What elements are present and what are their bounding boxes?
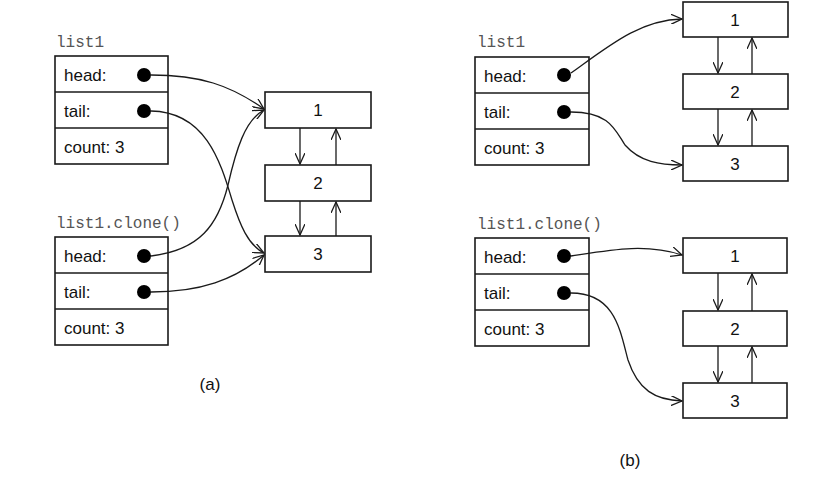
field-head-label: head: (484, 67, 527, 86)
node-value: 2 (730, 320, 739, 339)
node-value: 2 (313, 174, 322, 193)
struct-title: list1 (56, 34, 104, 52)
struct-list1: list1 head: tail: count: 3 (55, 34, 168, 164)
node-value: 3 (313, 245, 322, 264)
struct-clone: list1.clone() head: tail: count: 3 (55, 215, 181, 345)
node-value: 3 (730, 392, 739, 411)
struct-title: list1.clone() (477, 216, 602, 234)
struct-clone: list1.clone() head: tail: count: 3 (475, 216, 602, 346)
tail-pointer-dot (557, 286, 571, 300)
field-head-label: head: (484, 248, 527, 267)
node-chain-original: 1 2 3 (683, 2, 788, 181)
node-value: 2 (730, 83, 739, 102)
field-tail-label: tail: (64, 102, 90, 121)
field-tail-label: tail: (484, 284, 510, 303)
tail-pointer-dot (137, 285, 151, 299)
field-head-label: head: (64, 247, 107, 266)
head-pointer-dot (137, 249, 151, 263)
panel-b: list1 head: tail: count: 3 1 2 3 (475, 2, 788, 470)
struct-list1: list1 head: tail: count: 3 (475, 34, 589, 165)
node-value: 1 (730, 247, 739, 266)
node-value: 1 (730, 11, 739, 30)
field-count-label: count: 3 (64, 138, 125, 157)
panel-a: list1 head: tail: count: 3 list1.clone()… (55, 34, 371, 394)
field-tail-label: tail: (484, 103, 510, 122)
linked-list-clone-diagram: list1 head: tail: count: 3 list1.clone()… (0, 0, 819, 480)
field-head-label: head: (64, 66, 107, 85)
panel-caption: (a) (200, 375, 221, 394)
field-count-label: count: 3 (484, 320, 545, 339)
head-pointer-dot (137, 68, 151, 82)
node-chain: 1 2 3 (265, 92, 371, 272)
tail-pointer-dot (557, 105, 571, 119)
node-chain-copy: 1 2 3 (683, 238, 787, 418)
struct-title: list1.clone() (56, 215, 181, 233)
head-pointer-dot (557, 68, 571, 82)
field-count-label: count: 3 (64, 319, 125, 338)
field-tail-label: tail: (64, 283, 90, 302)
head-pointer-dot (557, 249, 571, 263)
field-count-label: count: 3 (484, 139, 545, 158)
node-value: 3 (730, 155, 739, 174)
panel-caption: (b) (620, 451, 641, 470)
tail-pointer-dot (137, 104, 151, 118)
node-value: 1 (313, 101, 322, 120)
struct-title: list1 (477, 34, 525, 52)
